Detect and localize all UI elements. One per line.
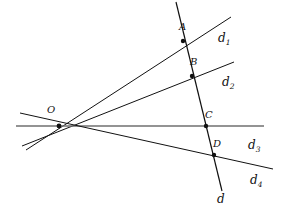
line-label-d: d <box>217 192 225 206</box>
line-label-d3: d3 <box>248 138 261 154</box>
point-label-O: O <box>47 104 55 115</box>
line-d4 <box>20 113 273 169</box>
point-B-marker <box>190 74 194 78</box>
line-label-d3-subscript: 3 <box>256 145 261 154</box>
point-D-marker <box>212 153 216 157</box>
geometry-diagram: A B C D O d1 d2 d3 d4 d <box>0 0 286 212</box>
line-label-d4: d4 <box>250 173 263 189</box>
line-label-d4-subscript: 4 <box>257 180 263 189</box>
point-A-marker <box>181 39 185 43</box>
concurrent-lines-group <box>16 17 273 169</box>
point-O-marker <box>57 124 62 129</box>
point-label-A: A <box>178 21 186 32</box>
line-label-d2: d2 <box>222 75 235 91</box>
point-C-marker <box>204 124 208 128</box>
line-label-d2-subscript: 2 <box>229 82 235 91</box>
point-label-B: B <box>189 56 197 67</box>
line-labels-group: d1 d2 d3 d4 d <box>217 31 263 206</box>
line-label-d1-subscript: 1 <box>226 38 231 47</box>
point-label-D: D <box>212 138 221 149</box>
point-label-C: C <box>205 109 213 120</box>
line-label-d1: d1 <box>218 31 230 47</box>
line-d1 <box>26 17 231 150</box>
geometry-canvas: A B C D O d1 d2 d3 d4 d <box>0 0 286 212</box>
